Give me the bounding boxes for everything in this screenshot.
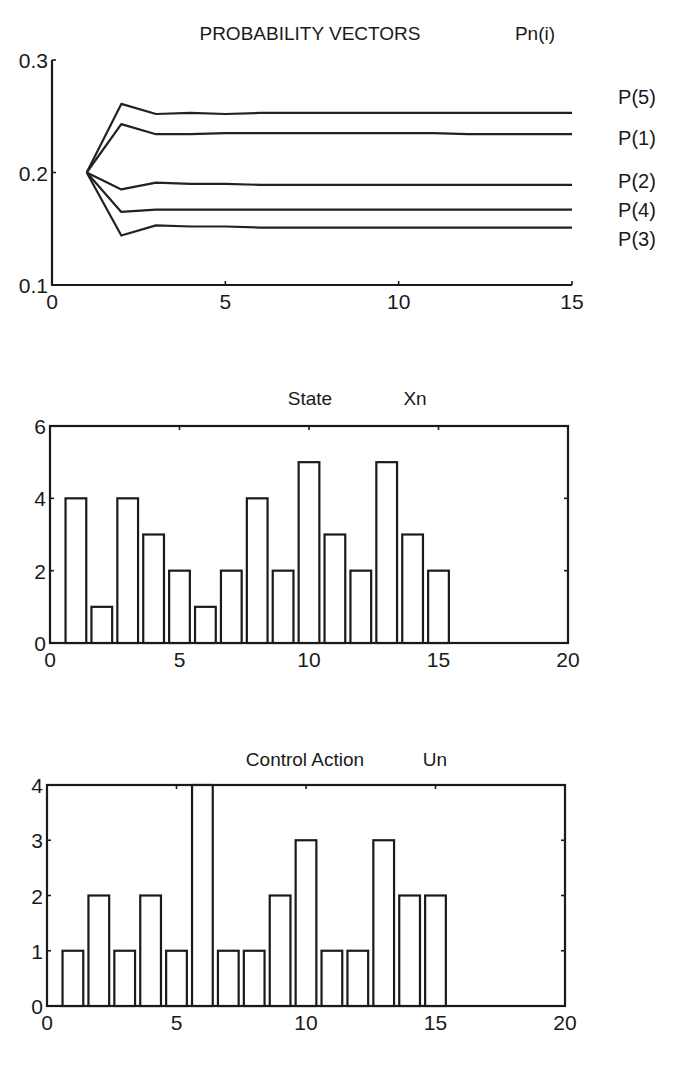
- series-label: P(4): [618, 199, 656, 221]
- chart-title-variable: Pn(i): [515, 23, 555, 44]
- series-label: P(5): [618, 86, 656, 108]
- chart-title: State: [288, 388, 332, 409]
- x-tick-label: 15: [427, 648, 450, 671]
- bar: [114, 951, 135, 1006]
- chart-title-variable: Xn: [403, 388, 426, 409]
- bar: [373, 840, 394, 1006]
- bar: [402, 535, 423, 644]
- bar: [350, 571, 371, 643]
- y-tick-label: 3: [31, 829, 43, 852]
- bar: [425, 896, 446, 1007]
- series-line: [87, 173, 572, 212]
- bar: [218, 951, 239, 1006]
- figure: PROBABILITY VECTORSPn(i)0510150.10.20.3P…: [0, 0, 676, 1067]
- bar: [299, 462, 320, 643]
- bar: [195, 607, 216, 643]
- bar: [347, 951, 368, 1006]
- bar: [117, 498, 138, 643]
- bar: [140, 896, 161, 1007]
- x-tick-label: 5: [174, 648, 186, 671]
- y-tick-label: 0.3: [19, 49, 48, 72]
- chart-0: PROBABILITY VECTORSPn(i)0510150.10.20.3P…: [19, 23, 656, 313]
- x-tick-label: 10: [294, 1011, 317, 1034]
- y-tick-label: 4: [34, 487, 46, 510]
- bar: [169, 571, 190, 643]
- y-tick-label: 0: [31, 995, 43, 1018]
- bar: [91, 607, 112, 643]
- chart-2: Control ActionUn0510152001234: [31, 749, 576, 1034]
- bar: [428, 571, 449, 643]
- y-tick-label: 0: [34, 632, 46, 655]
- series-line: [87, 104, 572, 173]
- y-tick-label: 2: [31, 885, 43, 908]
- bar: [66, 498, 87, 643]
- x-tick-label: 10: [387, 290, 410, 313]
- chart-title-variable: Un: [423, 749, 447, 770]
- chart-title: Control Action: [246, 749, 364, 770]
- y-tick-label: 2: [34, 560, 46, 583]
- y-tick-label: 1: [31, 940, 43, 963]
- bar: [244, 951, 265, 1006]
- x-tick-label: 15: [424, 1011, 447, 1034]
- y-tick-label: 0.2: [19, 162, 48, 185]
- bar: [221, 571, 242, 643]
- bar: [296, 840, 317, 1006]
- y-tick-label: 4: [31, 774, 43, 797]
- bar: [322, 951, 343, 1006]
- series-label: P(1): [618, 127, 656, 149]
- series-label: P(2): [618, 170, 656, 192]
- bar: [88, 896, 109, 1007]
- chart-1: StateXn051015200246: [34, 388, 579, 671]
- x-tick-label: 10: [297, 648, 320, 671]
- bar: [399, 896, 420, 1007]
- bar: [192, 785, 213, 1006]
- y-tick-label: 0.1: [19, 274, 48, 297]
- chart-title: PROBABILITY VECTORS: [199, 23, 420, 44]
- x-tick-label: 15: [560, 290, 583, 313]
- bar: [143, 535, 164, 644]
- bar: [273, 571, 294, 643]
- bar: [63, 951, 84, 1006]
- series-line: [87, 124, 572, 172]
- y-tick-label: 6: [34, 415, 46, 438]
- bar: [325, 535, 346, 644]
- bar: [270, 896, 291, 1007]
- axis-lines: [52, 60, 572, 285]
- bar: [166, 951, 187, 1006]
- x-tick-label: 20: [556, 648, 579, 671]
- x-tick-label: 5: [171, 1011, 183, 1034]
- x-tick-label: 5: [219, 290, 231, 313]
- series-line: [87, 173, 572, 190]
- bar: [376, 462, 397, 643]
- series-label: P(3): [618, 228, 656, 250]
- x-tick-label: 20: [553, 1011, 576, 1034]
- bar: [247, 498, 268, 643]
